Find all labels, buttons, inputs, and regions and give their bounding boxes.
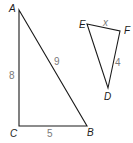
side-label-ab: 9 bbox=[54, 56, 60, 67]
vertex-label-e: E bbox=[79, 19, 86, 30]
side-label-ef: x bbox=[102, 17, 109, 28]
similar-triangles-diagram: A C B 8 9 5 E F D x 4 bbox=[0, 0, 133, 143]
side-label-fd: 4 bbox=[115, 57, 121, 68]
vertex-label-c: C bbox=[10, 128, 18, 139]
side-label-cb: 5 bbox=[47, 128, 53, 139]
triangle-abc bbox=[19, 10, 87, 126]
side-label-ac: 8 bbox=[9, 70, 15, 81]
triangle-efd bbox=[87, 24, 120, 88]
vertex-label-a: A bbox=[8, 3, 16, 14]
vertex-label-d: D bbox=[104, 91, 111, 102]
vertex-label-f: F bbox=[124, 25, 131, 36]
vertex-label-b: B bbox=[87, 127, 94, 138]
